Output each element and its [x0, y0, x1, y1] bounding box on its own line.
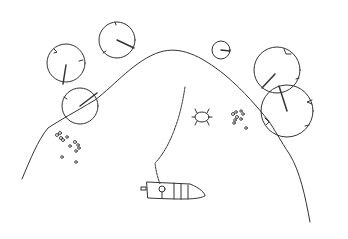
- sketch-canvas: [0, 0, 348, 239]
- lily-pad-1: [47, 44, 85, 84]
- pebbles-left: [56, 132, 81, 164]
- boat-icon: [141, 182, 205, 199]
- lily-pad-4: [212, 41, 230, 59]
- lily-pad-6: [261, 85, 313, 137]
- hill-outline: [22, 50, 310, 222]
- lily-pad-3: [62, 88, 98, 124]
- pebbles-right: [232, 110, 248, 130]
- pond-sketch: [0, 0, 348, 239]
- fishing-line: [155, 87, 185, 184]
- lily-pad-2: [99, 22, 135, 58]
- frog-icon: [192, 109, 212, 125]
